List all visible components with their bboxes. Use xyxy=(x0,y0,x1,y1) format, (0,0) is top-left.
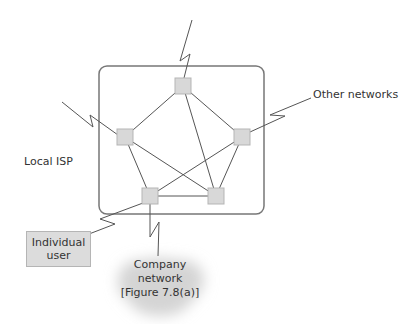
router-node-right xyxy=(234,129,250,145)
company-network-line1: Company xyxy=(110,258,210,272)
edge-right-bottom-left xyxy=(150,137,242,196)
edge-left-bottom-right xyxy=(125,137,216,196)
network-edges xyxy=(125,86,242,196)
routers xyxy=(117,78,250,204)
top-link xyxy=(180,20,192,78)
left-link xyxy=(62,102,118,135)
diagram-stage: Other networks Local ISP Individual user… xyxy=(0,0,411,324)
edge-left-bottom-left xyxy=(125,137,150,196)
edge-top-bottom-right xyxy=(183,86,216,196)
individual-user-label-line2: user xyxy=(47,249,71,262)
local-isp-label: Local ISP xyxy=(24,155,73,168)
other-networks-label: Other networks xyxy=(313,88,398,101)
company-network-line2: network xyxy=(110,272,210,286)
company-network-line3: [Figure 7.8(a)] xyxy=(110,286,210,300)
router-node-bottom-right xyxy=(208,188,224,204)
other-networks-link xyxy=(250,98,311,132)
individual-user-label-line1: Individual xyxy=(32,236,86,249)
individual-user-link xyxy=(89,203,143,234)
router-node-bottom-left xyxy=(142,188,158,204)
edge-top-left xyxy=(125,86,183,137)
router-node-top xyxy=(175,78,191,94)
individual-user-box: Individual user xyxy=(26,231,91,267)
edge-top-right xyxy=(183,86,242,137)
router-node-left xyxy=(117,129,133,145)
company-network-link xyxy=(150,204,159,256)
company-network-label: Company network [Figure 7.8(a)] xyxy=(110,258,210,300)
